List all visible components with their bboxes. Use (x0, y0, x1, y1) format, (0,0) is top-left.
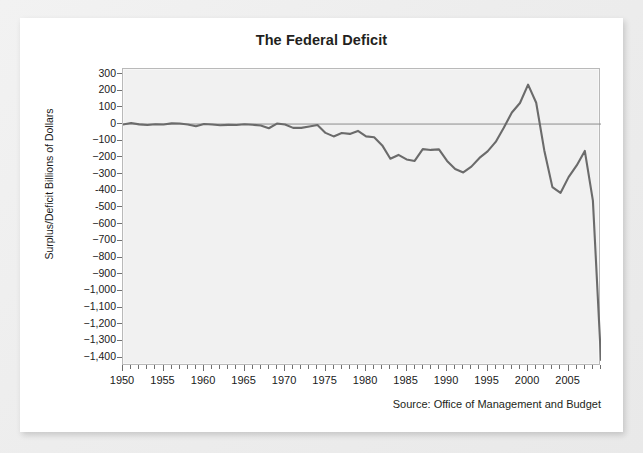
x-axis-major-tick (122, 365, 123, 371)
x-axis-major-tick (365, 365, 366, 371)
x-axis-minor-tick (592, 365, 593, 369)
source-note: Source: Office of Management and Budget (393, 398, 601, 410)
x-axis-minor-tick (349, 365, 350, 369)
x-axis-minor-tick (478, 365, 479, 369)
x-axis-minor-tick (146, 365, 147, 369)
x-axis-minor-tick (219, 365, 220, 369)
y-axis-tick-label: 100 (98, 101, 116, 112)
plot-area (122, 68, 600, 365)
x-axis-tick-label: 1955 (150, 374, 174, 386)
x-axis-major-tick (527, 365, 528, 371)
x-axis-minor-tick (333, 365, 334, 369)
x-axis-minor-tick (268, 365, 269, 369)
x-axis-tick-label: 2000 (515, 374, 539, 386)
x-axis-minor-tick (300, 365, 301, 369)
x-axis-minor-tick (292, 365, 293, 369)
x-axis-minor-tick (357, 365, 358, 369)
x-axis-tick-label: 1995 (474, 374, 498, 386)
y-axis-tick-label: −600 (92, 218, 116, 229)
x-axis-minor-tick (179, 365, 180, 369)
x-axis-minor-tick (381, 365, 382, 369)
x-axis-tick-label: 1985 (393, 374, 417, 386)
x-axis-major-tick (203, 365, 204, 371)
y-axis-tick-label: −1,400 (84, 351, 116, 362)
x-axis-tick-label: 2005 (555, 374, 579, 386)
x-axis-minor-tick (438, 365, 439, 369)
x-axis-minor-tick (414, 365, 415, 369)
x-axis-minor-tick (171, 365, 172, 369)
x-axis-labels: 1950195519601965197019751980198519901995… (122, 374, 602, 390)
x-axis-major-tick (406, 365, 407, 371)
series-line-surplus-deficit (123, 85, 601, 360)
x-axis-minor-tick (316, 365, 317, 369)
y-axis-tick-label: -500 (95, 201, 116, 212)
x-axis-major-tick (244, 365, 245, 371)
x-axis-minor-tick (308, 365, 309, 369)
x-axis-minor-tick (584, 365, 585, 369)
x-axis-minor-tick (276, 365, 277, 369)
x-axis-minor-tick (187, 365, 188, 369)
x-axis-tick-label: 1970 (272, 374, 296, 386)
y-axis-tick-label: −1,300 (84, 334, 116, 345)
plot-wrapper (122, 68, 602, 365)
y-axis-title: Surplus/Deficit Billions of Dollars (43, 59, 55, 309)
y-axis-tick-label: −700 (92, 234, 116, 245)
x-axis-major-tick (446, 365, 447, 371)
x-axis-minor-tick (511, 365, 512, 369)
x-axis-minor-tick (138, 365, 139, 369)
y-axis-tick-label: −300 (92, 168, 116, 179)
x-axis-tick-label: 1980 (353, 374, 377, 386)
page-title: The Federal Deficit (20, 32, 623, 48)
x-axis-minor-tick (130, 365, 131, 369)
x-axis-tick-label: 1990 (434, 374, 458, 386)
x-axis-tick-label: 1975 (312, 374, 336, 386)
x-axis-minor-tick (260, 365, 261, 369)
x-axis-minor-tick (422, 365, 423, 369)
y-axis-tick-label: −800 (92, 251, 116, 262)
x-axis-minor-tick (389, 365, 390, 369)
x-axis-minor-tick (227, 365, 228, 369)
deficit-line-chart (123, 69, 601, 366)
x-axis-minor-tick (543, 365, 544, 369)
x-axis-minor-tick (430, 365, 431, 369)
x-axis-tick-label: 1950 (110, 374, 134, 386)
y-axis-tick-label: -400 (95, 184, 116, 195)
y-axis-tick-label: −1,100 (84, 301, 116, 312)
x-axis-major-tick (163, 365, 164, 371)
x-axis-minor-tick (341, 365, 342, 369)
x-axis-major-tick (284, 365, 285, 371)
y-axis-tick-label: 0 (110, 118, 116, 129)
x-axis-minor-tick (535, 365, 536, 369)
x-axis-minor-tick (211, 365, 212, 369)
x-axis-minor-tick (252, 365, 253, 369)
x-axis-minor-tick (373, 365, 374, 369)
x-axis-minor-tick (235, 365, 236, 369)
x-axis-minor-tick (470, 365, 471, 369)
x-axis-minor-tick (503, 365, 504, 369)
y-axis-tick-label: 300 (98, 68, 116, 79)
x-axis-major-tick (487, 365, 488, 371)
x-axis-major-tick (568, 365, 569, 371)
x-axis-minor-tick (559, 365, 560, 369)
y-axis-tick-label: −100 (92, 134, 116, 145)
x-axis-ticks (122, 365, 602, 372)
chart-card: The Federal Deficit Surplus/Deficit Bill… (20, 18, 623, 432)
y-axis-tick-label: 200 (98, 84, 116, 95)
x-axis-minor-tick (495, 365, 496, 369)
x-axis-minor-tick (519, 365, 520, 369)
x-axis-minor-tick (600, 365, 601, 369)
x-axis-major-tick (325, 365, 326, 371)
y-axis-tick-label: −900 (92, 268, 116, 279)
x-axis-minor-tick (462, 365, 463, 369)
x-axis-minor-tick (454, 365, 455, 369)
y-axis-labels: 3002001000−100−200−300-400-500−600−700−8… (60, 68, 116, 365)
y-axis-tick-label: −200 (92, 151, 116, 162)
x-axis-minor-tick (576, 365, 577, 369)
x-axis-tick-label: 1965 (231, 374, 255, 386)
x-axis-tick-label: 1960 (191, 374, 215, 386)
x-axis-minor-tick (397, 365, 398, 369)
x-axis-minor-tick (195, 365, 196, 369)
x-axis-minor-tick (154, 365, 155, 369)
y-axis-tick-label: −1,200 (84, 318, 116, 329)
x-axis-minor-tick (551, 365, 552, 369)
